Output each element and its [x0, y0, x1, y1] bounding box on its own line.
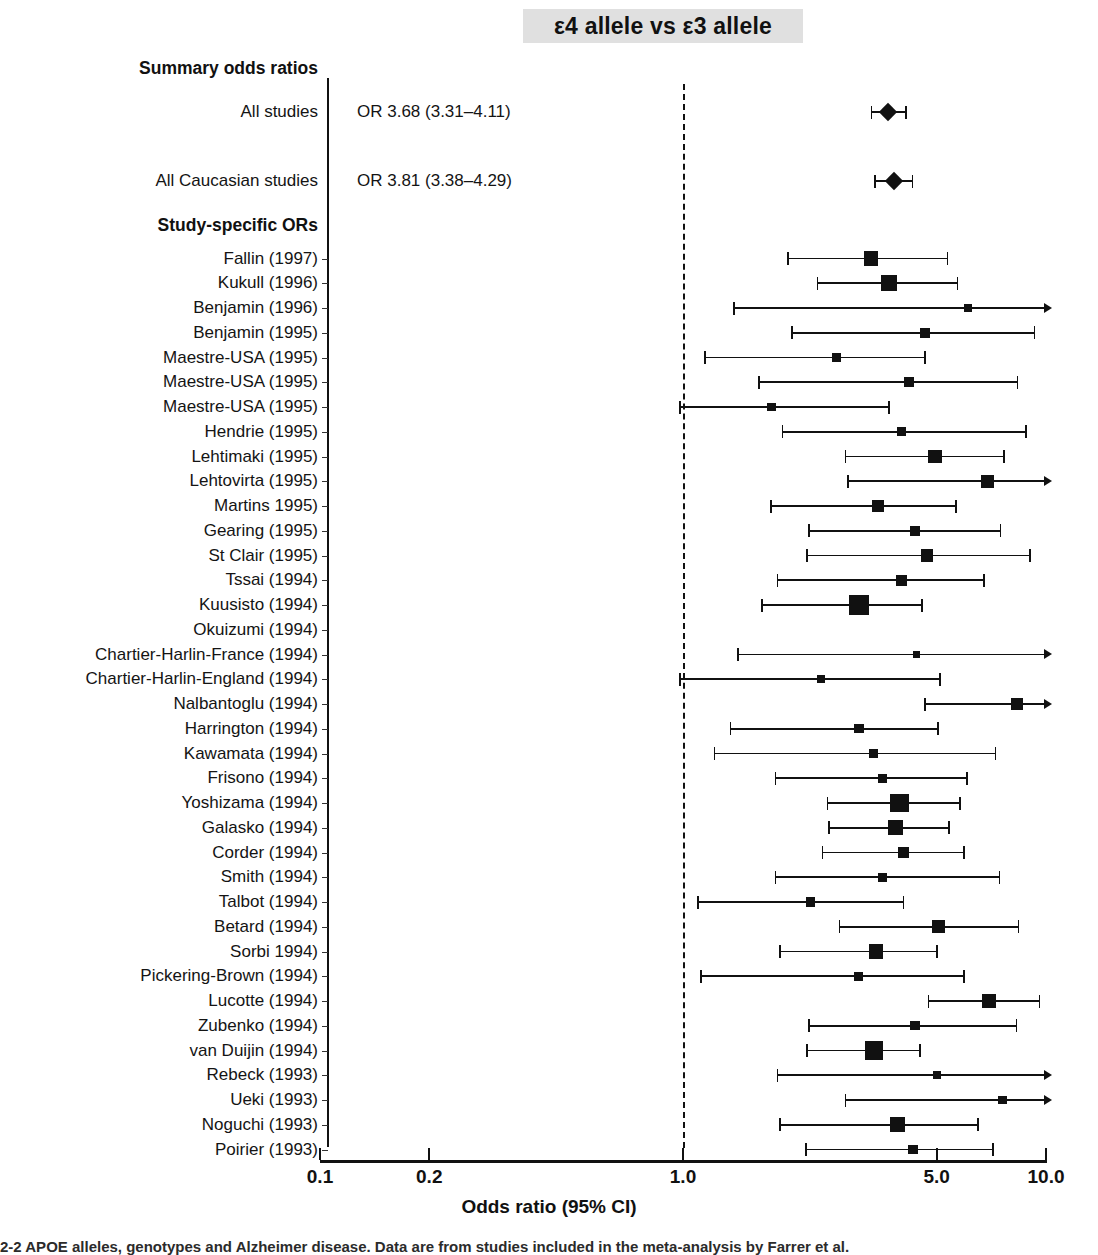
- confidence-interval-line: [848, 480, 1046, 482]
- y-axis-tick: [322, 506, 328, 507]
- confidence-interval-cap: [828, 821, 830, 834]
- y-axis-tick: [322, 853, 328, 854]
- study-point-marker: [881, 275, 897, 291]
- study-point-marker: [982, 994, 996, 1008]
- y-axis-tick: [322, 1051, 328, 1052]
- confidence-interval-cap: [839, 920, 841, 933]
- confidence-interval-line: [680, 678, 940, 680]
- confidence-interval-line: [762, 604, 922, 606]
- confidence-interval-cap: [1000, 524, 1002, 537]
- study-point-marker: [817, 675, 825, 683]
- confidence-interval-arrow: [1044, 476, 1052, 486]
- y-axis-tick: [322, 407, 328, 408]
- confidence-interval-cap: [679, 673, 681, 686]
- confidence-interval-cap: [871, 106, 873, 119]
- row-label: Maestre-USA (1995): [0, 373, 318, 390]
- confidence-interval-line: [680, 406, 889, 408]
- y-axis-tick: [322, 1075, 328, 1076]
- row-label: Betard (1994): [0, 918, 318, 935]
- confidence-interval-cap: [936, 945, 938, 958]
- confidence-interval-line: [759, 381, 1018, 383]
- y-axis-tick: [322, 382, 328, 383]
- y-axis-tick: [322, 927, 328, 928]
- confidence-interval-cap: [806, 549, 808, 562]
- confidence-interval-cap: [924, 351, 926, 364]
- confidence-interval-line: [792, 332, 1034, 334]
- confidence-interval-cap: [905, 106, 907, 119]
- y-axis-tick: [322, 803, 328, 804]
- confidence-interval-line: [925, 703, 1046, 705]
- y-axis-tick: [322, 308, 328, 309]
- confidence-interval-cap: [779, 1118, 781, 1131]
- study-point-marker: [981, 475, 994, 488]
- row-label: Nalbantoglu (1994): [0, 695, 318, 712]
- x-axis-tick: [1045, 1148, 1047, 1160]
- confidence-interval-cap: [737, 648, 739, 661]
- confidence-interval-line: [780, 951, 937, 953]
- study-point-marker: [921, 549, 933, 561]
- y-axis-tick: [322, 729, 328, 730]
- confidence-interval-cap: [733, 302, 735, 315]
- row-label: Hendrie (1995): [0, 423, 318, 440]
- row-label: Zubenko (1994): [0, 1017, 318, 1034]
- study-point-marker: [890, 794, 908, 812]
- confidence-interval-cap: [992, 1143, 994, 1156]
- study-point-marker: [854, 972, 863, 981]
- y-axis-tick: [322, 630, 328, 631]
- confidence-interval-cap: [1003, 450, 1005, 463]
- row-label: Lucotte (1994): [0, 992, 318, 1009]
- confidence-interval-line: [822, 852, 964, 854]
- y-axis-tick: [322, 976, 328, 977]
- y-axis-tick: [322, 556, 328, 557]
- y-axis-tick: [322, 333, 328, 334]
- confidence-interval-cap: [874, 175, 876, 188]
- confidence-interval-cap: [761, 599, 763, 612]
- study-point-marker: [1011, 698, 1023, 710]
- confidence-interval-cap: [903, 896, 905, 909]
- confidence-interval-cap: [921, 599, 923, 612]
- confidence-interval-cap: [963, 846, 965, 859]
- confidence-interval-cap: [928, 995, 930, 1008]
- confidence-interval-cap: [845, 450, 847, 463]
- y-axis-tick: [322, 952, 328, 953]
- study-point-marker: [928, 450, 941, 463]
- y-axis-tick: [322, 1001, 328, 1002]
- confidence-interval-cap: [817, 277, 819, 290]
- row-label: Galasko (1994): [0, 819, 318, 836]
- row-label: Noguchi (1993): [0, 1116, 318, 1133]
- confidence-interval-cap: [1029, 549, 1031, 562]
- confidence-interval-cap: [791, 326, 793, 339]
- confidence-interval-cap: [758, 376, 760, 389]
- confidence-interval-cap: [777, 1069, 779, 1082]
- y-axis-tick: [322, 679, 328, 680]
- y-axis-tick: [322, 605, 328, 606]
- row-label: Corder (1994): [0, 844, 318, 861]
- y-axis-tick: [322, 457, 328, 458]
- confidence-interval-line: [771, 505, 956, 507]
- confidence-interval-cap: [787, 252, 789, 265]
- confidence-interval-line: [730, 728, 938, 730]
- confidence-interval-cap: [983, 574, 985, 587]
- row-label: Talbot (1994): [0, 893, 318, 910]
- confidence-interval-line: [776, 777, 967, 779]
- study-point-marker: [890, 1117, 905, 1132]
- confidence-interval-cap: [806, 1044, 808, 1057]
- study-point-marker: [908, 1145, 917, 1154]
- confidence-interval-cap: [782, 425, 784, 438]
- summary-or-text: OR 3.68 (3.31–4.11): [357, 103, 511, 120]
- x-axis-tick-label: 0.1: [307, 1166, 333, 1188]
- confidence-interval-cap: [1025, 425, 1027, 438]
- y-axis-line: [327, 78, 329, 1147]
- summary-diamond-marker: [879, 103, 897, 121]
- study-point-marker: [910, 526, 920, 536]
- y-axis-tick: [322, 432, 328, 433]
- confidence-interval-cap: [1039, 995, 1041, 1008]
- study-point-marker: [832, 353, 841, 362]
- row-label: Harrington (1994): [0, 720, 318, 737]
- confidence-interval-cap: [1034, 326, 1036, 339]
- confidence-interval-cap: [704, 351, 706, 364]
- confidence-interval-cap: [827, 797, 829, 810]
- confidence-interval-cap: [847, 475, 849, 488]
- confidence-interval-line: [806, 1149, 993, 1151]
- confidence-interval-arrow: [1044, 649, 1052, 659]
